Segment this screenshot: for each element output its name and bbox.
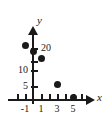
- x-axis-arrowhead-icon: [86, 95, 95, 105]
- x-tick-mark: [49, 94, 51, 100]
- x-tick-label-3: 3: [49, 104, 65, 114]
- x-tick-mark: [81, 94, 83, 100]
- y-tick-label-5: 5: [8, 81, 28, 91]
- scatter-plot-figure: y x -1 1 3 5 20 10 5: [0, 0, 109, 116]
- x-tick-mark: [17, 94, 19, 100]
- y-axis-label: y: [37, 15, 42, 26]
- y-tick-mark: [31, 61, 38, 63]
- x-tick-label-minus1: -1: [17, 104, 33, 114]
- data-point: [30, 48, 37, 55]
- x-tick-mark: [41, 94, 43, 100]
- x-tick-mark: [25, 94, 27, 100]
- y-tick-label-10: 10: [8, 65, 28, 75]
- data-point: [38, 55, 45, 62]
- y-axis-line: [32, 33, 34, 104]
- y-axis-arrowhead-icon: [28, 26, 38, 35]
- x-tick-label-5: 5: [65, 104, 81, 114]
- data-point: [54, 81, 61, 88]
- y-tick-mark: [31, 86, 38, 88]
- x-tick-label-1: 1: [33, 104, 49, 114]
- data-point: [70, 94, 77, 101]
- y-tick-label-20: 20: [41, 43, 61, 53]
- data-point: [22, 42, 29, 49]
- x-axis-label: x: [97, 92, 102, 103]
- x-tick-mark: [57, 94, 59, 100]
- x-tick-mark: [65, 94, 67, 100]
- y-tick-mark: [31, 70, 38, 72]
